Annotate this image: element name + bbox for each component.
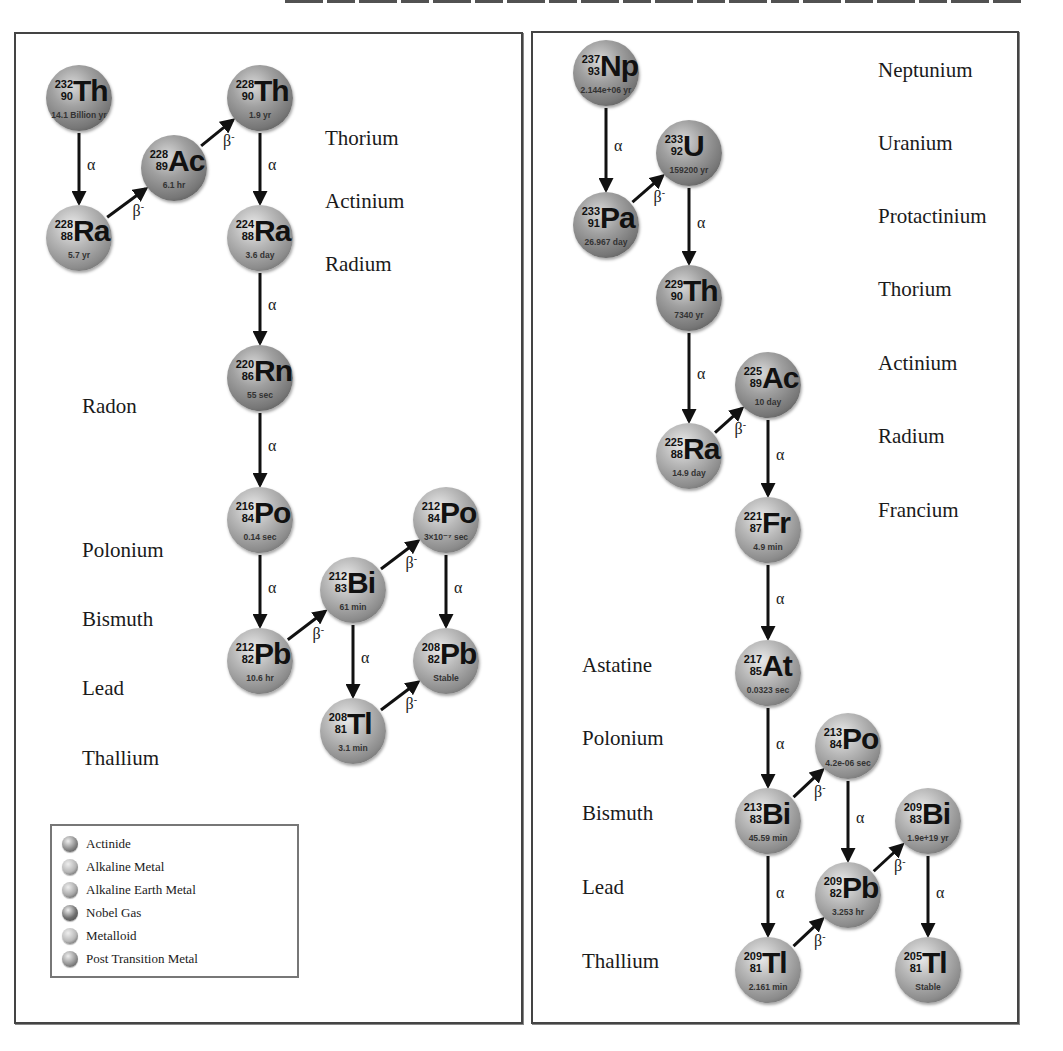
legend-item-alkaline-earth: Alkaline Earth Metal	[62, 880, 196, 900]
sphere-swatch-icon	[62, 836, 78, 852]
atomic-number: 83	[325, 582, 347, 594]
beta-minus-label: β-	[654, 187, 665, 206]
element-symbol: Tl	[762, 946, 787, 980]
mass-number: 217	[740, 653, 762, 665]
element-symbol: Pb	[440, 637, 476, 671]
beta-minus-label: β-	[814, 931, 825, 950]
element-name-label: Neptunium	[878, 58, 973, 83]
atomic-number: 82	[820, 887, 842, 899]
nuclide-bi213: 21383Bi45.59 min	[735, 788, 801, 854]
atomic-number: 89	[740, 377, 762, 389]
legend-item-noble-gas: Nobel Gas	[62, 903, 141, 923]
mass-number: 212	[232, 641, 254, 653]
half-life: 4.9 min	[735, 543, 801, 552]
sphere-swatch-icon	[62, 859, 78, 875]
atomic-number: 84	[820, 738, 842, 750]
mass-number: 229	[661, 278, 683, 290]
element-name-label: Actinium	[325, 189, 404, 214]
alpha-label: α	[268, 296, 276, 314]
element-symbol: Ac	[762, 361, 798, 395]
alpha-label: α	[697, 214, 705, 232]
half-life: 0.0323 sec	[735, 686, 801, 695]
atomic-number: 83	[740, 813, 762, 825]
mass-number: 237	[578, 53, 600, 65]
nuclide-np237: 23793Np2.144e+06 yr	[573, 40, 639, 106]
element-name-label: Thallium	[82, 746, 159, 771]
atomic-number: 81	[325, 723, 347, 735]
nuclide-th232: 23290Th14.1 Billion yr	[46, 65, 112, 131]
atomic-number: 83	[900, 813, 922, 825]
atomic-number: 81	[900, 962, 922, 974]
nuclide-pb208: 20882PbStable	[413, 628, 479, 694]
legend-item-alkaline: Alkaline Metal	[62, 857, 164, 877]
half-life: 10 day	[735, 398, 801, 407]
nuclide-ac228: 22889Ac6.1 hr	[141, 135, 207, 201]
alpha-label: α	[856, 809, 864, 827]
element-name-label: Radium	[878, 424, 945, 449]
element-name-label: Radium	[325, 252, 392, 277]
mass-number: 208	[418, 641, 440, 653]
nuclide-po216: 21684Po0.14 sec	[227, 487, 293, 553]
sphere-swatch-icon	[62, 951, 78, 967]
element-name-label: Astatine	[582, 653, 652, 678]
alpha-label: α	[614, 137, 622, 155]
mass-number: 209	[820, 875, 842, 887]
half-life: 6.1 hr	[141, 181, 207, 190]
element-name-label: Francium	[878, 498, 958, 523]
mass-number: 208	[325, 711, 347, 723]
nuclide-ra224: 22488Ra3.6 day	[227, 205, 293, 271]
atomic-number: 87	[740, 522, 762, 534]
beta-minus-label: β-	[313, 624, 324, 643]
element-symbol: Ac	[168, 144, 204, 178]
element-symbol: Ra	[254, 214, 290, 248]
atomic-number: 89	[146, 160, 168, 172]
nuclide-pa233: 23391Pa26.967 day	[573, 192, 639, 258]
mass-number: 220	[232, 358, 254, 370]
beta-minus-label: β-	[406, 553, 417, 572]
nuclide-u233: 23392U159200 yr	[656, 120, 722, 186]
legend-label: Nobel Gas	[86, 905, 141, 921]
element-symbol: Bi	[922, 797, 950, 831]
atomic-number: 81	[740, 962, 762, 974]
alpha-label: α	[268, 156, 276, 174]
atomic-number: 85	[740, 665, 762, 677]
beta-minus-label: β-	[894, 856, 905, 875]
sphere-swatch-icon	[62, 882, 78, 898]
mass-number: 209	[900, 801, 922, 813]
half-life: 0.14 sec	[227, 533, 293, 542]
beta-minus-label: β-	[223, 131, 234, 150]
element-symbol: Bi	[762, 797, 790, 831]
element-symbol: Ra	[683, 432, 719, 466]
half-life: 2.161 min	[735, 983, 801, 992]
alpha-label: α	[936, 884, 944, 902]
alpha-label: α	[776, 884, 784, 902]
half-life: 2.144e+06 yr	[573, 86, 639, 95]
half-life: 14.1 Billion yr	[46, 111, 112, 120]
nuclide-po212: 21284Po3×10⁻⁷ sec	[413, 487, 479, 553]
atomic-number: 84	[418, 512, 440, 524]
nuclide-at217: 21785At0.0323 sec	[735, 640, 801, 706]
half-life: 10.6 hr	[227, 674, 293, 683]
atomic-number: 90	[51, 90, 73, 102]
mass-number: 205	[900, 950, 922, 962]
mass-number: 213	[820, 726, 842, 738]
half-life: 4.2e-06 sec	[815, 759, 881, 768]
nuclide-tl208: 20881Tl3.1 min	[320, 698, 386, 764]
element-name-label: Uranium	[878, 131, 953, 156]
sphere-swatch-icon	[62, 905, 78, 921]
element-name-label: Thorium	[878, 277, 952, 302]
half-life: 14.9 day	[656, 469, 722, 478]
element-symbol: At	[762, 649, 792, 683]
half-life: 7340 yr	[656, 311, 722, 320]
element-symbol: Bi	[347, 566, 375, 600]
legend-label: Alkaline Earth Metal	[86, 882, 196, 898]
nuclide-th229: 22990Th7340 yr	[656, 265, 722, 331]
nuclide-po213: 21384Po4.2e-06 sec	[815, 713, 881, 779]
mass-number: 225	[740, 365, 762, 377]
element-symbol: Tl	[347, 707, 372, 741]
alpha-label: α	[697, 365, 705, 383]
mass-number: 232	[51, 78, 73, 90]
half-life: 3.1 min	[320, 744, 386, 753]
atomic-number: 91	[578, 217, 600, 229]
element-name-label: Thallium	[582, 949, 659, 974]
